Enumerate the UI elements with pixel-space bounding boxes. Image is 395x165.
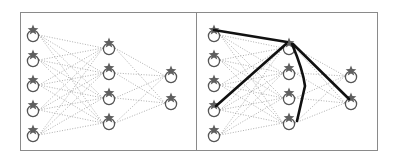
connection-edges <box>39 35 165 135</box>
neuron-node-icon <box>27 124 38 141</box>
network-diagram-figure <box>0 0 395 165</box>
neuron-node-icon <box>103 37 114 54</box>
neuron-node-icon <box>103 87 114 104</box>
dotted-connection <box>295 103 345 123</box>
neuron-node-icon <box>208 124 219 141</box>
highlighted-connections <box>214 30 349 121</box>
neuron-node-icon <box>27 24 38 41</box>
neuron-node-icon <box>208 24 219 41</box>
neuron-node-icon <box>283 112 294 129</box>
neuron-node-icon <box>27 99 38 116</box>
highlighted-connection <box>214 30 287 42</box>
dotted-connection <box>115 73 165 103</box>
highlighted-connection <box>216 44 286 106</box>
diagram-panels <box>21 13 378 151</box>
dotted-connection <box>39 35 103 48</box>
neuron-node-icon <box>165 92 176 109</box>
dotted-connection <box>115 76 165 123</box>
neuron-node-icon <box>283 62 294 79</box>
panel-left <box>21 13 197 151</box>
neuron-node-icon <box>27 74 38 91</box>
neuron-node-icon <box>208 99 219 116</box>
neuron-node-icon <box>165 65 176 82</box>
neuron-node-icon <box>283 87 294 104</box>
neuron-node-icon <box>103 62 114 79</box>
neuron-node-icon <box>345 65 356 82</box>
neuron-node-icon <box>208 74 219 91</box>
neuron-node-icon <box>103 112 114 129</box>
dotted-connection <box>115 103 165 123</box>
panel-right <box>197 13 378 151</box>
neuron-node-icon <box>208 49 219 66</box>
neuron-node-icon <box>27 49 38 66</box>
neuron-node-icon <box>345 92 356 109</box>
dotted-connection <box>115 48 165 76</box>
